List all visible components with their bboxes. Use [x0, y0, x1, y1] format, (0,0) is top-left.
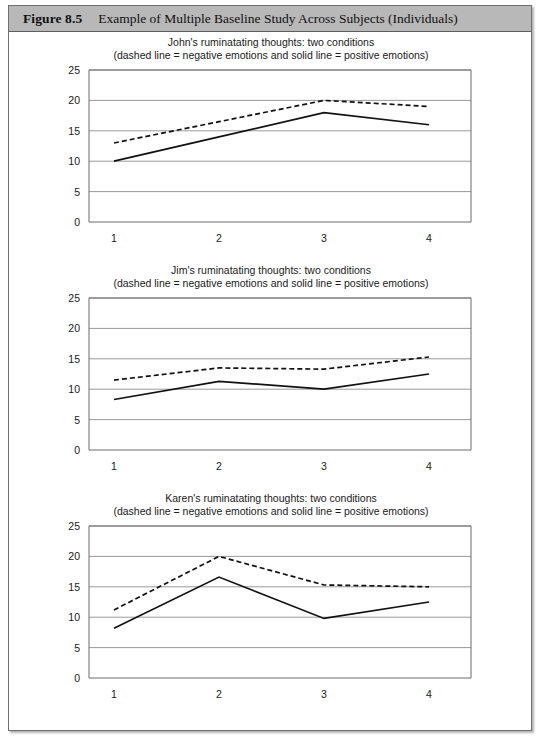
- series-line-positive-emotions: [114, 374, 429, 400]
- x-axis-tick-label: 1: [111, 688, 117, 700]
- x-axis-tick-label: 3: [321, 460, 327, 472]
- y-axis-tick-label: 20: [68, 94, 80, 106]
- series-line-negative-emotions: [114, 357, 429, 380]
- x-axis-tick-label: 2: [216, 460, 222, 472]
- plot-frame: [89, 70, 471, 222]
- line-chart-jim: 05101520251234: [9, 290, 533, 480]
- y-axis-tick-label: 15: [68, 581, 80, 593]
- y-axis-tick-label: 25: [68, 520, 80, 532]
- y-axis-tick-label: 10: [68, 155, 80, 167]
- y-axis-tick-label: 25: [68, 292, 80, 304]
- chart-title-john: John's ruminatating thoughts: two condit…: [9, 32, 533, 62]
- y-axis-tick-label: 5: [74, 414, 80, 426]
- chart-block-john: John's ruminatating thoughts: two condit…: [9, 32, 533, 260]
- plot-area-jim: 05101520251234: [9, 290, 533, 480]
- figure-number: Figure 8.5: [23, 11, 82, 27]
- series-line-positive-emotions: [114, 113, 429, 162]
- line-chart-karen: 05101520251234: [9, 518, 533, 708]
- y-axis-tick-label: 0: [74, 216, 80, 228]
- figure-page: Figure 8.5 Example of Multiple Baseline …: [8, 5, 532, 731]
- chart-title-jim: Jim's ruminatating thoughts: two conditi…: [9, 260, 533, 290]
- series-line-negative-emotions: [114, 100, 429, 143]
- plot-area-karen: 05101520251234: [9, 518, 533, 708]
- chart-title-line1: Jim's ruminatating thoughts: two conditi…: [171, 264, 371, 276]
- x-axis-tick-label: 1: [111, 460, 117, 472]
- x-axis-tick-label: 2: [216, 688, 222, 700]
- y-axis-tick-label: 10: [68, 611, 80, 623]
- y-axis-tick-label: 20: [68, 550, 80, 562]
- series-line-positive-emotions: [114, 577, 429, 628]
- figure-caption: Example of Multiple Baseline Study Acros…: [98, 11, 458, 27]
- chart-block-karen: Karen's ruminatating thoughts: two condi…: [9, 488, 533, 716]
- x-axis-tick-label: 3: [321, 232, 327, 244]
- chart-title-line1: Karen's ruminatating thoughts: two condi…: [165, 492, 377, 504]
- series-line-negative-emotions: [114, 556, 429, 610]
- plot-area-john: 05101520251234: [9, 62, 533, 252]
- chart-block-jim: Jim's ruminatating thoughts: two conditi…: [9, 260, 533, 488]
- y-axis-tick-label: 25: [68, 64, 80, 76]
- x-axis-tick-label: 4: [426, 460, 432, 472]
- chart-title-line2: (dashed line = negative emotions and sol…: [9, 505, 533, 518]
- y-axis-tick-label: 15: [68, 353, 80, 365]
- chart-title-line1: John's ruminatating thoughts: two condit…: [168, 36, 374, 48]
- y-axis-tick-label: 10: [68, 383, 80, 395]
- y-axis-tick-label: 0: [74, 672, 80, 684]
- figure-header: Figure 8.5 Example of Multiple Baseline …: [9, 6, 531, 32]
- x-axis-tick-label: 2: [216, 232, 222, 244]
- chart-title-line2: (dashed line = negative emotions and sol…: [9, 277, 533, 290]
- x-axis-tick-label: 4: [426, 688, 432, 700]
- y-axis-tick-label: 0: [74, 444, 80, 456]
- y-axis-tick-label: 20: [68, 322, 80, 334]
- y-axis-tick-label: 5: [74, 186, 80, 198]
- line-chart-john: 05101520251234: [9, 62, 533, 252]
- x-axis-tick-label: 1: [111, 232, 117, 244]
- y-axis-tick-label: 5: [74, 642, 80, 654]
- plot-frame: [89, 298, 471, 450]
- chart-title-line2: (dashed line = negative emotions and sol…: [9, 49, 533, 62]
- chart-title-karen: Karen's ruminatating thoughts: two condi…: [9, 488, 533, 518]
- x-axis-tick-label: 4: [426, 232, 432, 244]
- y-axis-tick-label: 15: [68, 125, 80, 137]
- x-axis-tick-label: 3: [321, 688, 327, 700]
